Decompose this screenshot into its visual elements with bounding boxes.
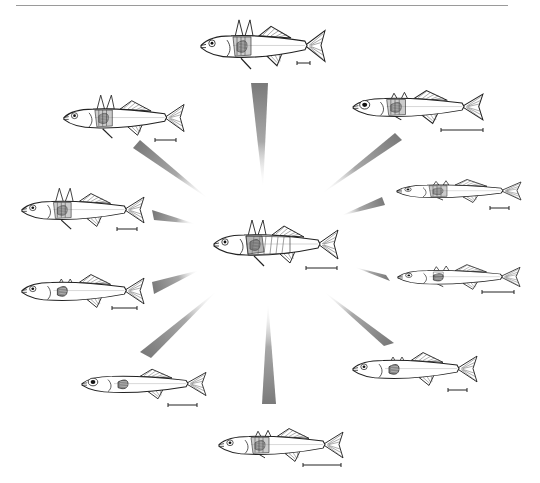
- eye-icon: [361, 364, 367, 370]
- fish-body-icon: [201, 26, 325, 65]
- wedge-lower-left: [152, 270, 200, 294]
- fish-upper-left: [64, 95, 184, 138]
- fish-body-icon: [22, 275, 144, 308]
- scale-bar: [490, 206, 509, 210]
- fish-bottom-left: [82, 369, 206, 399]
- wedge-bottom-right: [322, 290, 394, 346]
- wedge-bottom-left: [140, 290, 218, 358]
- fish-body-icon: [353, 353, 477, 386]
- scale-bar: [303, 463, 341, 467]
- wedge-upper-left: [133, 140, 210, 200]
- fish-body-icon: [22, 194, 144, 227]
- lateral-armor-plates: [53, 202, 71, 218]
- fish-mid-left: [22, 188, 144, 229]
- fish-bottom: [219, 429, 343, 462]
- lateral-armor-plates: [95, 110, 112, 127]
- fish-body-icon: [64, 101, 184, 136]
- lateral-armor-plates: [387, 99, 406, 115]
- wedge-lower-right: [354, 267, 390, 281]
- fish-body-icon: [398, 265, 520, 290]
- eye-icon: [30, 286, 36, 292]
- wedge-mid-right: [340, 197, 385, 216]
- lateral-armor-plates: [429, 186, 447, 197]
- scale-bar: [448, 388, 467, 392]
- wedge-upper-right: [320, 133, 402, 195]
- fish-body-icon: [397, 179, 521, 202]
- fish-mid-right: [397, 179, 521, 202]
- eye-icon: [71, 113, 77, 119]
- eye-icon: [222, 239, 228, 245]
- eye-icon: [227, 440, 233, 446]
- eye-icon: [406, 273, 412, 277]
- fish-top: [201, 20, 325, 69]
- fish-upper-right: [353, 91, 483, 124]
- lateral-armor-plates: [251, 437, 269, 453]
- eye-icon: [209, 40, 215, 47]
- scale-bar: [112, 306, 137, 310]
- fish-body-icon: [82, 369, 206, 399]
- fish-bottom-right: [353, 353, 477, 386]
- eye-icon: [360, 101, 370, 110]
- fish-body-icon: [353, 91, 483, 124]
- fish-body-icon: [219, 429, 343, 462]
- wedge-top: [251, 83, 268, 190]
- scale-bar: [297, 61, 310, 65]
- eye-icon: [88, 378, 98, 386]
- fish-lower-left: [22, 275, 144, 308]
- eye-icon: [30, 205, 36, 211]
- scale-bar: [155, 138, 176, 142]
- central-ancestral-fish: [214, 220, 338, 266]
- fish-lower-right: [398, 265, 520, 290]
- wedge-mid-left: [152, 210, 196, 224]
- radiation-diagram: [0, 0, 540, 483]
- fish-body-icon: [214, 226, 338, 263]
- scale-bar: [117, 227, 137, 231]
- scale-bar: [168, 403, 197, 407]
- lateral-armor-plates: [233, 37, 251, 56]
- scale-bar: [482, 290, 514, 294]
- wedge-bottom: [262, 300, 276, 404]
- eye-icon: [405, 187, 411, 191]
- scale-bar: [441, 128, 483, 132]
- scale-bar: [306, 266, 337, 270]
